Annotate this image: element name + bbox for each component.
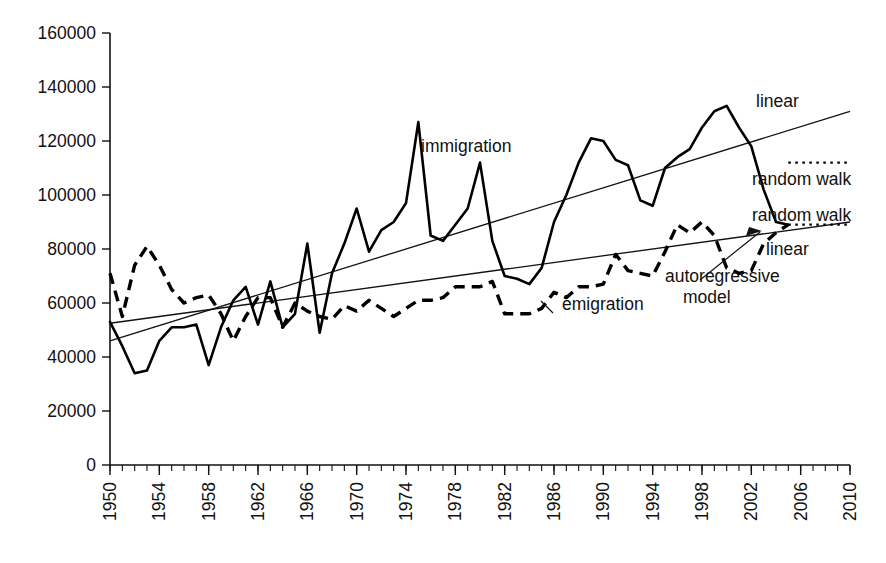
x-axis-tick-label: 1990	[593, 482, 613, 521]
y-axis-tick-label: 160000	[38, 23, 97, 43]
y-axis-tick-label: 80000	[47, 239, 96, 259]
y-axis-tick-labels: 0200004000060000800001000001200001400001…	[38, 23, 97, 475]
chart-canvas: 0200004000060000800001000001200001400001…	[0, 0, 886, 563]
y-axis-tick-label: 40000	[47, 347, 96, 367]
x-axis-tick-label: 1958	[199, 482, 219, 521]
linear-upper-label: linear	[756, 91, 799, 111]
x-axis-tick-label: 1982	[495, 482, 515, 521]
y-axis-tick-label: 60000	[47, 293, 96, 313]
random-walk-lower-label: random walk	[752, 205, 851, 225]
x-axis-tick-label: 1950	[100, 482, 120, 521]
x-axis-tick-label: 1970	[347, 482, 367, 521]
x-axis-tick-label: 1966	[297, 482, 317, 521]
x-axis-tick-label: 1962	[248, 482, 268, 521]
y-axis-tick-label: 100000	[38, 185, 97, 205]
y-axis-ticks	[102, 33, 110, 465]
y-axis-tick-label: 0	[86, 455, 96, 475]
autoregressive-label-line2: model	[683, 287, 731, 307]
x-axis-tick-label: 1974	[396, 482, 416, 521]
y-axis-tick-label: 120000	[38, 131, 97, 151]
immigration-label: immigration	[421, 136, 511, 156]
x-axis-tick-label: 2006	[791, 482, 811, 521]
x-axis-tick-label: 2002	[741, 482, 761, 521]
random-walk-upper-label: random walk	[752, 169, 851, 189]
x-axis-tick-label: 1978	[445, 482, 465, 521]
chart-figure: 0200004000060000800001000001200001400001…	[0, 0, 886, 563]
x-axis-tick-label: 1994	[643, 482, 663, 521]
x-axis-tick-label: 2010	[840, 482, 860, 521]
x-axis-tick-labels: 1950195419581962196619701974197819821986…	[100, 482, 860, 521]
autoregressive-label-line1: autoregressive	[665, 266, 780, 286]
x-axis-minor-ticks	[110, 465, 850, 471]
x-axis-tick-label: 1998	[692, 482, 712, 521]
x-axis-tick-label: 1954	[149, 482, 169, 521]
y-axis-tick-label: 20000	[47, 401, 96, 421]
x-axis-tick-label: 1986	[544, 482, 564, 521]
y-axis-tick-label: 140000	[38, 77, 97, 97]
linear-lower-label: linear	[766, 239, 809, 259]
emigration-label: emigration	[562, 294, 644, 314]
